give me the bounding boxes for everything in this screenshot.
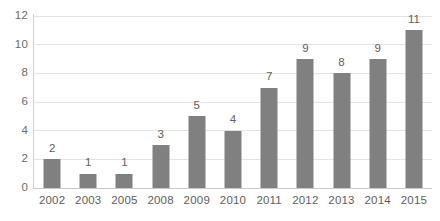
plot-area: 211354798911 [34,0,432,221]
bar-value-label: 7 [266,71,272,83]
y-axis-line [33,14,34,189]
x-axis-tick-label: 2008 [147,195,173,207]
bar-group: 9 [287,0,323,188]
bar-value-label: 8 [338,57,344,69]
x-axis-tick-label: 2013 [328,195,354,207]
y-axis-tick-label: 8 [0,67,28,79]
bar [224,131,241,188]
bar-group: 3 [143,0,179,188]
bar-value-label: 1 [121,157,127,169]
x-axis-tick-label: 2014 [365,195,391,207]
x-axis-tick-label: 2009 [184,195,210,207]
y-axis-tick-label: 6 [0,96,28,108]
bar-group: 5 [179,0,215,188]
bar [405,30,422,188]
bar [44,159,61,188]
x-axis-tick-label: 2005 [111,195,137,207]
y-axis-tick-label: 10 [0,39,28,51]
x-axis-tick-label: 2011 [256,195,282,207]
y-axis-tick-label: 0 [0,182,28,194]
bar-value-label: 11 [408,14,420,26]
bar [333,73,350,188]
bar [297,59,314,188]
bar-group: 1 [70,0,106,188]
bar-value-label: 5 [194,100,200,112]
bar-group: 2 [34,0,70,188]
bar-group: 4 [215,0,251,188]
bar-value-label: 3 [157,129,163,141]
bar-group: 11 [396,0,432,188]
bar [80,174,97,188]
y-axis: 024681012 [0,0,28,221]
bar-value-label: 1 [85,157,91,169]
bar-group: 9 [360,0,396,188]
bar-value-label: 4 [230,114,236,126]
bar-value-label: 9 [375,43,381,55]
bar [261,88,278,188]
x-axis-tick-label: 2003 [75,195,101,207]
y-axis-tick-label: 4 [0,125,28,137]
x-axis-tick-label: 2002 [39,195,65,207]
bar-value-label: 2 [49,143,55,155]
x-axis-tick-label: 2010 [220,195,246,207]
y-axis-tick-label: 2 [0,153,28,165]
bar-chart: 211354798911 024681012 20022003200520082… [0,0,440,221]
bar-group: 1 [106,0,142,188]
bar [188,116,205,188]
x-axis-tick-label: 2012 [292,195,318,207]
bar-group: 7 [251,0,287,188]
bar [369,59,386,188]
bar [152,145,169,188]
y-axis-tick-label: 12 [0,10,28,22]
bar-value-label: 9 [302,43,308,55]
x-axis-tick-label: 2015 [401,195,427,207]
bar-group: 8 [323,0,359,188]
bar [116,174,133,188]
